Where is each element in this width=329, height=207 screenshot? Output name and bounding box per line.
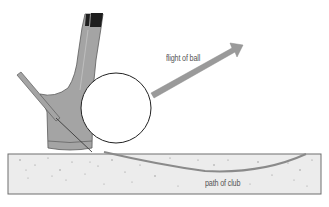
path-of-club-label: path of club [205, 178, 240, 188]
golf-ball [81, 73, 151, 143]
golf-bunker-shot-diagram [0, 0, 329, 207]
flight-of-ball-label: flight of ball [166, 53, 200, 63]
flight-arrow [151, 43, 243, 98]
sand-bunker [8, 154, 321, 194]
